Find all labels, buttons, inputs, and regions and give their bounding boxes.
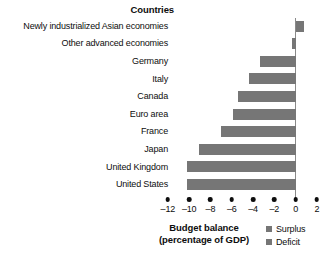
legend-item-deficit: Deficit (266, 236, 324, 248)
bar (238, 91, 296, 102)
axis-tick-dot (251, 197, 256, 202)
legend-swatch-surplus (266, 226, 272, 232)
bar (233, 109, 296, 120)
legend-label-surplus: Surplus (276, 224, 305, 234)
bar (221, 126, 296, 137)
axis-title: Budget balance (percentage of GDP) (146, 222, 262, 245)
bar (249, 73, 296, 84)
axis-tick-dot (272, 197, 277, 202)
axis-tick-dot (315, 197, 320, 202)
bar (260, 56, 295, 67)
axis-tick-dot (187, 197, 192, 202)
axis-tick-label: –12 (161, 204, 175, 214)
axis-tick-dot (208, 197, 213, 202)
axis-tick-label: –2 (269, 204, 279, 214)
axis-tick-dot (293, 197, 298, 202)
legend-swatch-deficit (266, 239, 272, 245)
plot-area (0, 18, 324, 194)
axis-tick-label: –8 (206, 204, 216, 214)
bar (296, 21, 305, 32)
axis-tick-dot (229, 197, 234, 202)
bar (187, 161, 296, 172)
legend-item-surplus: Surplus (266, 223, 324, 235)
axis-tick-label: –10 (182, 204, 196, 214)
countries-heading: Countries (0, 4, 174, 15)
axis-tick-dot (166, 197, 171, 202)
legend-label-deficit: Deficit (276, 237, 300, 247)
bar (292, 38, 295, 49)
axis-tick-label: –6 (227, 204, 237, 214)
bar (187, 179, 296, 190)
legend: SurplusDeficit (266, 223, 324, 249)
x-axis: –12–10–8–6–4–202 (0, 194, 324, 220)
bar (199, 144, 296, 155)
budget-balance-chart: Countries Newly industrialized Asian eco… (0, 0, 324, 255)
axis-title-line-2: (percentage of GDP) (146, 234, 262, 246)
axis-title-line-1: Budget balance (146, 222, 262, 234)
axis-tick-label: 0 (293, 204, 298, 214)
axis-tick-label: 2 (314, 204, 319, 214)
axis-tick-label: –4 (248, 204, 258, 214)
